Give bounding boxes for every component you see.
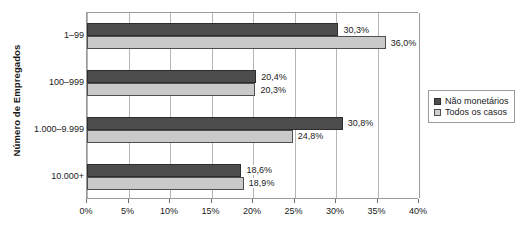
bar-value-label: 36,0% xyxy=(390,38,418,48)
y-axis-title-text: Número de Empregados xyxy=(12,44,23,156)
bar-todos-os-casos xyxy=(87,36,386,49)
x-axis-tick-label: 30% xyxy=(326,206,344,216)
legend-item: Não monetários xyxy=(434,96,509,106)
gridline xyxy=(419,13,420,198)
bar-value-label: 18,9% xyxy=(248,178,276,188)
bar-value-label: 24,8% xyxy=(297,131,325,141)
bar-todos-os-casos xyxy=(87,83,255,96)
bar-series-group: 30,3%36,0%20,4%20,3%30,8%24,8%18,6%18,9% xyxy=(87,13,418,198)
x-axis-tick xyxy=(418,199,419,203)
x-axis-tick xyxy=(128,199,129,203)
legend-item-label: Todos os casos xyxy=(445,107,507,117)
bar-nao-monetarios xyxy=(87,70,256,83)
bar-nao-monetarios xyxy=(87,164,241,177)
x-axis-tick-label: 0% xyxy=(79,206,92,216)
bar-value-label: 20,4% xyxy=(260,72,288,82)
bar-todos-os-casos xyxy=(87,177,244,190)
bar-value-label: 30,8% xyxy=(347,118,375,128)
x-axis-tick-label: 20% xyxy=(243,206,261,216)
category-label: 100–999 xyxy=(22,77,84,87)
x-axis-tick xyxy=(86,199,87,203)
bar-nao-monetarios xyxy=(87,23,338,36)
light-square-icon xyxy=(434,109,441,116)
x-axis-tick-label: 10% xyxy=(160,206,178,216)
legend-item: Todos os casos xyxy=(434,107,509,117)
x-axis-tick-label: 15% xyxy=(201,206,219,216)
chart-legend: Não monetáriosTodos os casos xyxy=(428,90,515,123)
x-axis-tick xyxy=(169,199,170,203)
x-axis-tick-label: 35% xyxy=(367,206,385,216)
x-axis-tick xyxy=(335,199,336,203)
x-axis-tick xyxy=(252,199,253,203)
bar-value-label: 18,6% xyxy=(245,165,273,175)
bar-chart: Número de Empregados 1–99100–9991.000–9.… xyxy=(0,0,525,234)
x-axis: 0%5%10%15%20%25%30%35%40% xyxy=(86,199,418,225)
x-axis-tick xyxy=(377,199,378,203)
x-axis-tick-label: 25% xyxy=(284,206,302,216)
bar-value-label: 30,3% xyxy=(342,25,370,35)
bar-value-label: 20,3% xyxy=(259,85,287,95)
x-axis-tick xyxy=(211,199,212,203)
category-label: 10.000+ xyxy=(22,171,84,181)
x-axis-tick-label: 5% xyxy=(121,206,134,216)
bar-nao-monetarios xyxy=(87,117,343,130)
x-axis-tick xyxy=(294,199,295,203)
category-label: 1.000–9.999 xyxy=(22,124,84,134)
legend-item-label: Não monetários xyxy=(445,96,509,106)
bar-todos-os-casos xyxy=(87,130,293,143)
dark-square-icon xyxy=(434,98,441,105)
plot-area: 30,3%36,0%20,4%20,3%30,8%24,8%18,6%18,9% xyxy=(86,12,418,199)
category-axis-labels: 1–99100–9991.000–9.99910.000+ xyxy=(22,12,84,199)
category-label: 1–99 xyxy=(22,30,84,40)
x-axis-tick-label: 40% xyxy=(409,206,427,216)
